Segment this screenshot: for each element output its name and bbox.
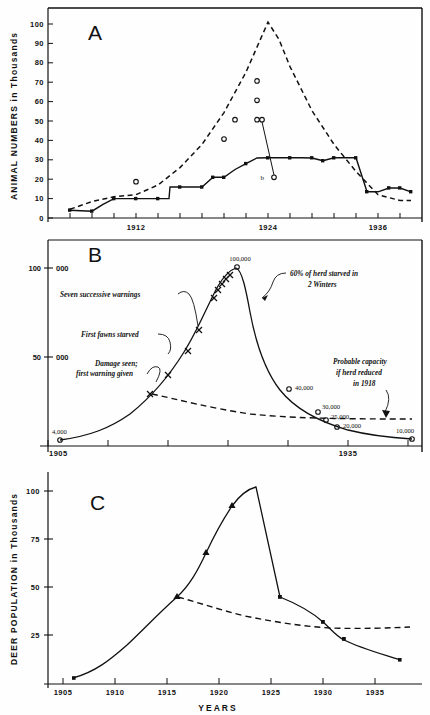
figure-svg: 0 10 20 30 40 50 60 70 80 90 100 — [0, 0, 430, 715]
panel-b-label-10000: 10,000 — [396, 427, 415, 434]
panel-c-letter: C — [90, 491, 105, 514]
panel-c-xtick-1925: 1925 — [262, 688, 281, 697]
panel-c-xtick-1930: 1930 — [314, 688, 333, 697]
deer-population-figure: 0 10 20 30 40 50 60 70 80 90 100 — [0, 0, 430, 715]
panel-b-xtick-1905: 1905 — [49, 449, 68, 458]
panel-b-anno-in-1918: in 1918 — [353, 379, 376, 388]
panel-b-letter: B — [88, 243, 102, 266]
panel-b-ytick-100-suffix: 000 — [56, 264, 69, 273]
panel-a-ytick-20: 20 — [35, 175, 44, 184]
panel-b-label-40000: 40,000 — [295, 384, 314, 391]
panel-b-anno-2-winters: 2 Winters — [307, 280, 337, 289]
panel-b-anno-seven-warnings: Seven successive warnings — [60, 290, 140, 299]
panel-b-label-100000: 100,000 — [229, 255, 251, 262]
panel-a-letter: A — [88, 21, 102, 44]
panel-b-ytick-50: 50 — [33, 353, 41, 362]
panel-c-ytick-75: 75 — [31, 535, 40, 544]
panel-b-anno-first-warning: first warning given — [76, 369, 133, 378]
panel-c-ytick-50: 50 — [31, 583, 40, 592]
panel-a-b-label: b — [261, 174, 265, 182]
panel-c-xtick-1905: 1905 — [54, 688, 73, 697]
panel-b-ytick-100: 100 — [28, 264, 41, 273]
panel-a-y-axis-title: ANIMAL NUMBERS in Thousands — [9, 32, 19, 200]
panel-a-ytick-10: 10 — [35, 194, 44, 203]
panel-a-ytick-60: 60 — [35, 97, 44, 106]
panel-b-label-25000: 25,000 — [331, 413, 350, 420]
panel-c-xtick-1910: 1910 — [106, 688, 125, 697]
panel-a-xtick-1912: 1912 — [127, 223, 146, 232]
panel-a-ytick-70: 70 — [35, 78, 44, 87]
panel-b-anno-damage-seen: Damage seen; — [94, 359, 138, 368]
panel-a-ytick-80: 80 — [35, 58, 44, 67]
panel-c-ytick-100: 100 — [26, 487, 40, 496]
panel-a-xtick-1924: 1924 — [259, 223, 278, 232]
panel-a-ytick-50: 50 — [35, 117, 44, 126]
panel-b-xtick-1935: 1935 — [339, 449, 358, 458]
panel-b-anno-if-reduced: if herd reduced — [336, 368, 382, 377]
panel-c-xtick-1920: 1920 — [210, 688, 229, 697]
panel-b-anno-first-fawns: First fawns starved — [81, 330, 139, 339]
panel-b-label-20000: 20,000 — [343, 422, 362, 429]
panel-c-y-axis-title: DEER POPULATION in Thousands — [9, 493, 19, 665]
panel-b-anno-probable-capacity: Probable capacity — [333, 357, 387, 366]
panel-a-ytick-90: 90 — [35, 39, 44, 48]
panel-a-ytick-100: 100 — [30, 20, 44, 29]
figure-x-axis-title: YEARS — [198, 703, 237, 713]
panel-a-ytick-0: 0 — [39, 214, 44, 223]
panel-b-ytick-50-suffix: 000 — [56, 353, 69, 362]
panel-b-anno-60pct: 60% of herd starved in — [290, 269, 358, 278]
panel-b-label-30000: 30,000 — [322, 403, 341, 410]
panel-a-xtick-1936: 1936 — [369, 223, 388, 232]
panel-c-ytick-25: 25 — [31, 631, 40, 640]
panel-c-xtick-1935: 1935 — [366, 688, 385, 697]
panel-a-ytick-30: 30 — [35, 155, 44, 164]
panel-c-xtick-1915: 1915 — [158, 688, 177, 697]
panel-a-ytick-40: 40 — [35, 136, 44, 145]
panel-b-label-4000: 4,000 — [52, 428, 68, 435]
